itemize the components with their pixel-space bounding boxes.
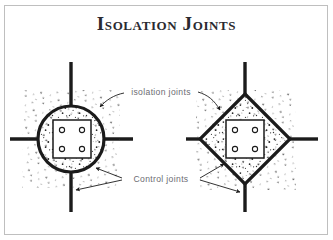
- anchor-bolt: [252, 127, 257, 132]
- anchor-bolt: [232, 146, 237, 151]
- isolation-joints-diagram: isolation joints Control joints: [0, 0, 333, 240]
- anchor-bolt: [79, 146, 84, 151]
- anchor-bolt: [59, 127, 64, 132]
- anchor-bolt: [252, 146, 257, 151]
- anchor-bolt: [79, 127, 84, 132]
- pedestal-square-left: [53, 120, 91, 158]
- isolation-joints-label: isolation joints: [131, 87, 191, 97]
- control-joints-label: Control joints: [133, 174, 188, 184]
- anchor-bolt: [232, 127, 237, 132]
- anchor-bolt: [59, 146, 64, 151]
- pedestal-square-right: [226, 120, 264, 158]
- diamond-isolation-joint: [186, 62, 318, 212]
- round-isolation-joint: [10, 62, 133, 212]
- figure-page: Isolation Joints: [0, 0, 333, 240]
